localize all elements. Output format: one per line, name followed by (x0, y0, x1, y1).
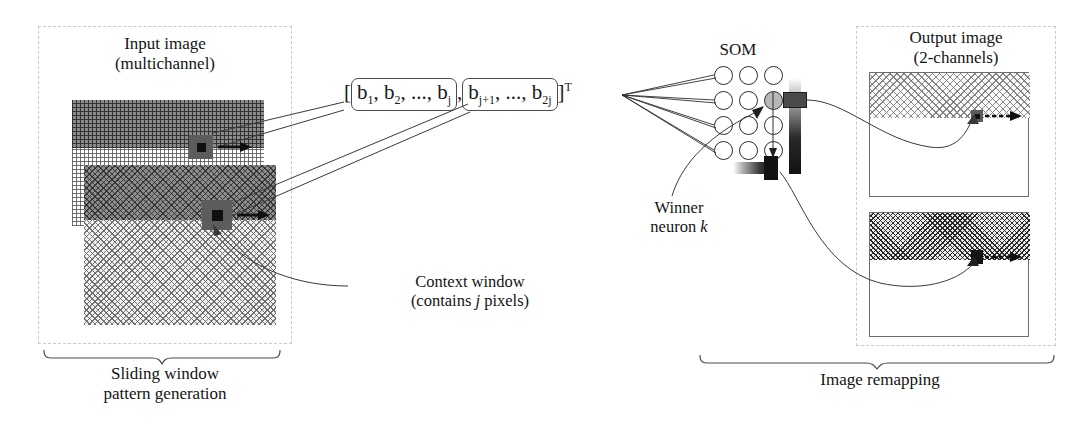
som-downlink-arrowhead (769, 148, 777, 158)
connector-overlay (0, 0, 1085, 425)
leader-line-back-g2 (214, 110, 344, 148)
leader-line-front-g2 (233, 112, 470, 215)
remap-curves (780, 100, 971, 286)
input-section-brace (44, 350, 280, 364)
remap-arrowhead-1 (967, 114, 979, 124)
output-scan-arrows (985, 111, 1022, 262)
leader-lines (213, 102, 470, 215)
remap-arrowhead-2 (967, 256, 979, 266)
som-input-fanout (622, 75, 716, 153)
sliding-arrows (218, 142, 270, 220)
winner-pointer-arrowhead (752, 106, 764, 119)
remap-curve-channel-2 (780, 172, 971, 286)
output-section-brace (700, 355, 1054, 369)
context-window-arrowhead (213, 224, 222, 236)
context-window-pointer (218, 232, 348, 286)
leader-line-back-g1 (213, 102, 344, 133)
remap-curve-channel-1 (807, 100, 971, 148)
leader-line-front-g1 (232, 104, 468, 203)
